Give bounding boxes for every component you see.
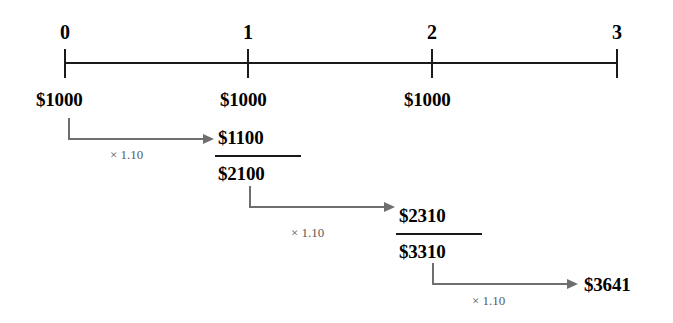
step-2-sum-bar: [396, 233, 482, 235]
step-1-running-total: $2100: [218, 164, 265, 183]
period-label-0: 0: [60, 22, 70, 42]
step-3-connector-horizontal: [432, 283, 570, 285]
timeline-tick-0: [64, 49, 66, 78]
period-label-2: 2: [427, 22, 437, 42]
step-2-connector-horizontal: [249, 206, 387, 208]
step-3-arrowhead: [567, 279, 578, 289]
step-1-sum-bar: [215, 155, 301, 157]
cash-flow-period-2: $1000: [404, 90, 451, 109]
step-1-arrowhead: [203, 134, 214, 144]
timeline-tick-2: [431, 49, 433, 78]
step-2-running-total: $3310: [399, 242, 446, 261]
period-label-3: 3: [612, 22, 622, 42]
step-2-arrowhead: [384, 202, 395, 212]
timeline-axis: [65, 62, 618, 64]
cash-flow-period-1: $1000: [220, 90, 267, 109]
timeline-tick-1: [247, 49, 249, 78]
cash-flow-period-0: $1000: [36, 90, 83, 109]
step-1-compounded-amount: $1100: [218, 128, 263, 147]
timeline-diagram: 0 1 2 3 $1000 $1000 $1000 × 1.10 $1100 $…: [0, 0, 673, 323]
step-1-connector-vertical: [68, 118, 70, 140]
step-2-compounded-amount: $2310: [399, 206, 446, 225]
step-1-multiplier-label: × 1.10: [110, 148, 143, 161]
step-2-connector-vertical: [249, 186, 251, 208]
timeline-tick-3: [616, 49, 618, 78]
step-2-multiplier-label: × 1.10: [291, 226, 324, 239]
final-value-amount: $3641: [584, 275, 631, 294]
step-3-multiplier-label: × 1.10: [472, 294, 505, 307]
period-label-1: 1: [243, 22, 253, 42]
step-3-connector-vertical: [432, 263, 434, 285]
step-1-connector-horizontal: [68, 138, 206, 140]
